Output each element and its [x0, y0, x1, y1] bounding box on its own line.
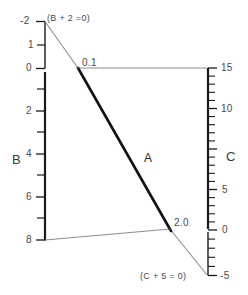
axis-b — [36, 22, 45, 241]
axis-c-tick-label-10: 10 — [221, 104, 233, 114]
index-line-lower-segment-b — [45, 229, 170, 240]
nomogram-chart: -2 1 0 2 4 6 8 15 10 5 0 -5 B C A 0.1 2.… — [0, 0, 248, 295]
axis-b-tick-label-0: 0 — [26, 63, 32, 73]
nomogram-graphics — [0, 0, 248, 295]
axis-c-tick-label--5: -5 — [220, 271, 230, 281]
pivot-point-bottom — [169, 228, 172, 231]
axis-b-tick-label-4: 4 — [26, 149, 32, 159]
index-line-upper — [45, 22, 207, 69]
axis-c-tick-label-0: 0 — [222, 225, 228, 235]
axis-c — [208, 68, 217, 276]
axis-b-tick-label-8: 8 — [26, 235, 32, 245]
annotation-b-equation: (B + 2 =0) — [47, 14, 90, 23]
axis-b-tick-label--2: -2 — [20, 16, 30, 26]
point-label-top: 0.1 — [82, 58, 97, 68]
annotation-c-equation: (C + 5 = 0) — [140, 272, 186, 281]
axis-b-tick-label-6: 6 — [26, 192, 32, 202]
index-line-lower — [45, 229, 207, 275]
point-label-bottom: 2.0 — [174, 218, 189, 228]
axis-b-name: B — [12, 153, 21, 166]
axis-c-tick-label-15: 15 — [221, 63, 233, 73]
index-line-upper-segment-b — [45, 22, 78, 69]
pivot-point-top — [77, 67, 80, 70]
line-a — [78, 68, 171, 231]
axis-b-tick-label-2: 2 — [26, 106, 32, 116]
line-a-label: A — [144, 152, 152, 164]
axis-c-tick-label-5: 5 — [222, 185, 228, 195]
axis-c-name: C — [226, 150, 236, 163]
index-line-lower-segment-c — [170, 229, 207, 275]
axis-b-tick-label-1: 1 — [28, 40, 34, 50]
